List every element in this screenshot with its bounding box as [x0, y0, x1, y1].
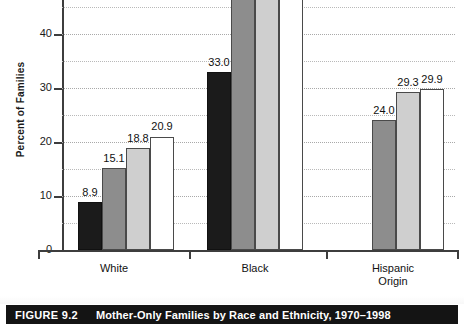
- y-tick-label-40: 40: [22, 27, 52, 39]
- bar-black-1990[interactable]: [255, 0, 279, 250]
- x-tick-right-edge: [457, 250, 459, 259]
- data-label-hispanic-1998: 29.9: [412, 73, 452, 85]
- data-label-black-1970: 33.0: [199, 56, 239, 68]
- y-tick-label-20: 20: [22, 135, 52, 147]
- bar-white-1970[interactable]: [78, 202, 102, 250]
- bars-layer: [62, 0, 455, 250]
- data-label-white-1980: 15.1: [94, 152, 134, 164]
- x-tick-white-black: [189, 250, 191, 259]
- x-category-hispanic: Hispanic Origin: [360, 262, 426, 288]
- bar-black-1980[interactable]: [231, 0, 255, 250]
- x-tick-left-edge: [38, 250, 40, 259]
- y-tick-label-30: 30: [22, 81, 52, 93]
- figure-caption-bar: FIGURE 9.2 Mother-Only Families by Race …: [6, 305, 458, 324]
- data-label-white-1998: 20.9: [142, 120, 182, 132]
- data-label-hispanic-1980: 24.0: [364, 104, 404, 116]
- bar-hispanic-1998[interactable]: [420, 89, 444, 250]
- y-tick-label-0: 0: [22, 243, 52, 255]
- figure-number-label: FIGURE 9.2: [15, 309, 78, 321]
- x-category-white: White: [84, 262, 144, 275]
- figure-caption-text: Mother-Only Families by Race and Ethnici…: [96, 309, 391, 321]
- x-axis-line: [38, 250, 459, 252]
- data-label-white-1990: 18.8: [118, 132, 158, 144]
- plot-area: 8.9 15.1 18.8 20.9 33.0 24.0 29.3 29.9: [62, 0, 455, 250]
- bar-white-1998[interactable]: [150, 137, 174, 250]
- bar-hispanic-1980[interactable]: [372, 120, 396, 250]
- x-category-black: Black: [225, 262, 285, 275]
- y-tick-label-10: 10: [22, 189, 52, 201]
- y-axis-title: Percent of Families: [15, 45, 26, 175]
- x-tick-black-hisp: [326, 250, 328, 259]
- data-label-white-1970: 8.9: [70, 186, 110, 198]
- bar-black-1970[interactable]: [207, 72, 231, 250]
- scan-noise-band: [0, 296, 464, 304]
- figure-container: Percent of Families 0 10 20 30 40: [0, 0, 464, 328]
- bar-white-1980[interactable]: [102, 168, 126, 250]
- bar-black-1998[interactable]: [279, 0, 303, 250]
